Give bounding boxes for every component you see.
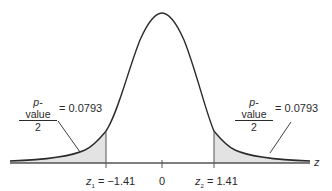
normal-curve bbox=[10, 13, 310, 161]
right-pvalue-fraction: p-value 2 bbox=[235, 96, 273, 134]
right-tail-shade bbox=[214, 131, 310, 163]
right-fraction-numerator: p-value bbox=[235, 96, 273, 121]
z2-label: z2 = 1.41 bbox=[195, 175, 238, 191]
right-pvalue-equals: = 0.0793 bbox=[275, 102, 318, 114]
right-annotation-pointer bbox=[270, 122, 291, 153]
z1-label: z1 = −1.41 bbox=[86, 175, 135, 191]
left-fraction-numerator: p-value bbox=[19, 96, 57, 121]
center-zero-label: 0 bbox=[159, 175, 165, 187]
left-pvalue-fraction: p-value 2 bbox=[19, 96, 57, 134]
z-axis-label: z bbox=[314, 156, 320, 168]
left-tail-shade bbox=[10, 131, 106, 163]
left-annotation-pointer bbox=[58, 121, 80, 152]
right-fraction-denominator: 2 bbox=[235, 121, 273, 134]
left-fraction-denominator: 2 bbox=[19, 121, 57, 134]
left-pvalue-equals: = 0.0793 bbox=[59, 102, 102, 114]
